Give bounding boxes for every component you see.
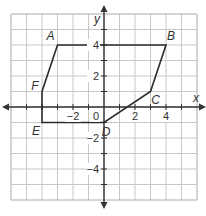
y-axis-down-arrow-icon	[101, 202, 108, 209]
y-tick-label: 2	[93, 70, 99, 82]
y-tick-label: 4	[93, 39, 99, 51]
axes	[2, 5, 206, 209]
coordinate-plane: −22442−2−40xyABCDEF	[0, 0, 206, 216]
origin-label: 0	[93, 110, 99, 122]
vertex-label-e: E	[32, 124, 41, 138]
vertex-label-d: D	[102, 125, 111, 139]
vertex-label-f: F	[31, 79, 39, 93]
x-tick-label: −2	[67, 110, 80, 122]
x-tick-label: 2	[132, 110, 138, 122]
vertex-label-a: A	[45, 29, 54, 43]
y-tick-label: −2	[86, 132, 99, 144]
y-axis-up-arrow-icon	[101, 5, 108, 12]
x-axis-label: x	[192, 91, 200, 105]
vertex-label-b: B	[167, 29, 175, 43]
y-tick-label: −4	[86, 163, 99, 175]
x-axis-left-arrow-icon	[2, 104, 9, 111]
x-tick-label: 4	[163, 110, 169, 122]
y-axis-label: y	[93, 12, 101, 26]
x-axis-right-arrow-icon	[199, 104, 206, 111]
labels: −22442−2−40xyABCDEF	[31, 12, 200, 175]
vertex-label-c: C	[151, 93, 160, 107]
